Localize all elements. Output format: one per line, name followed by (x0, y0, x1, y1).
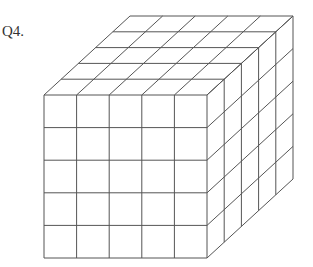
top-depth-line (109, 16, 195, 95)
right-depth-line (207, 49, 293, 128)
right-depth-line (207, 16, 293, 95)
top-depth-line (174, 16, 260, 95)
top-depth-line (142, 16, 228, 95)
top-depth-line (44, 16, 130, 95)
right-depth-line (207, 81, 293, 160)
cube-diagram (0, 0, 313, 267)
right-depth-line (207, 114, 293, 193)
right-depth-line (207, 179, 293, 258)
right-depth-line (207, 146, 293, 225)
top-depth-line (77, 16, 163, 95)
